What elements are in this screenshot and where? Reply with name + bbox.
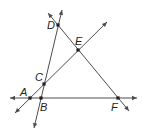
arrowhead-icon	[59, 10, 63, 15]
point-label-e: E	[75, 35, 83, 47]
arrowhead-icon	[33, 123, 37, 128]
point-a	[28, 96, 31, 99]
line-DEF	[48, 13, 129, 111]
geometry-diagram: ABCDEF	[0, 0, 143, 140]
point-label-c: C	[35, 71, 43, 83]
point-d	[56, 23, 59, 26]
arrowhead-icon	[132, 96, 137, 100]
point-label-b: B	[40, 101, 47, 113]
line-segment	[48, 13, 129, 111]
point-label-d: D	[47, 19, 55, 31]
point-b	[39, 96, 42, 99]
arrowhead-icon	[10, 96, 15, 100]
point-label-a: A	[19, 86, 27, 98]
point-f	[116, 96, 119, 99]
diagram-canvas: ABCDEF	[0, 0, 143, 140]
point-label-f: F	[111, 101, 119, 113]
point-e	[76, 48, 79, 51]
